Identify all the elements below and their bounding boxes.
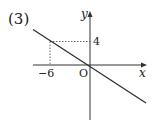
x-tick-label: −6 <box>38 68 54 79</box>
x-axis-label: x <box>139 67 146 79</box>
origin-label: O <box>79 68 88 79</box>
y-axis-arrow-icon <box>88 11 93 17</box>
y-axis-label: y <box>81 8 88 20</box>
y-tick-label: 4 <box>93 36 100 47</box>
graph <box>0 0 152 132</box>
